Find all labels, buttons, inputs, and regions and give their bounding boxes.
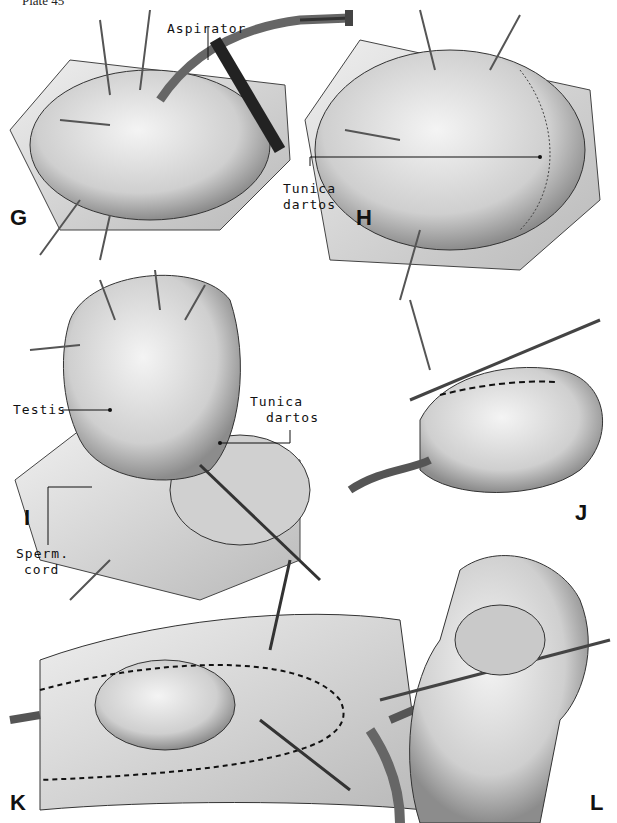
panel-letter-k: K bbox=[10, 790, 26, 816]
panel-letter-l: L bbox=[590, 790, 603, 816]
label-sperm: Sperm. bbox=[16, 547, 69, 561]
panel-j-drawing bbox=[350, 300, 603, 493]
label-cord: cord bbox=[24, 563, 59, 577]
label-testis: Testis bbox=[13, 403, 66, 417]
label-dartos-i: dartos bbox=[266, 411, 319, 425]
panel-letter-h: H bbox=[356, 205, 372, 231]
panel-g-drawing bbox=[10, 10, 353, 260]
panel-letter-i: I bbox=[24, 505, 30, 531]
label-dartos-h: dartos bbox=[283, 198, 336, 212]
panel-h-drawing bbox=[305, 10, 600, 300]
label-tunica-i: Tunica bbox=[250, 395, 303, 409]
label-tunica-h: Tunica bbox=[283, 182, 336, 196]
panel-letter-g: G bbox=[10, 205, 27, 231]
panel-letter-j: J bbox=[575, 500, 587, 526]
label-aspirator: Aspirator bbox=[167, 22, 246, 36]
